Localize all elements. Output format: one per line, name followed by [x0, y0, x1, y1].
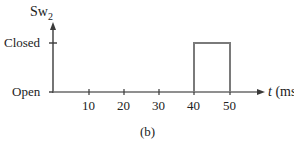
- x-tick-label-10: 10: [82, 99, 95, 112]
- y-axis-arrow-icon: [50, 22, 56, 30]
- x-tick-label-50: 50: [223, 99, 236, 112]
- x-axis-arrow-icon: [257, 89, 265, 95]
- x-tick-label-20: 20: [117, 99, 130, 112]
- y-label-open: Open: [12, 85, 40, 98]
- x-tick-label-30: 30: [152, 99, 165, 112]
- y-label-closed: Closed: [4, 36, 40, 49]
- x-tick-label-40: 40: [187, 99, 200, 112]
- x-axis-label: t (ms): [268, 85, 294, 99]
- sw2-pulse: [194, 43, 230, 92]
- y-axis-label: Sw2: [30, 5, 53, 22]
- figure-caption: (b): [140, 125, 155, 138]
